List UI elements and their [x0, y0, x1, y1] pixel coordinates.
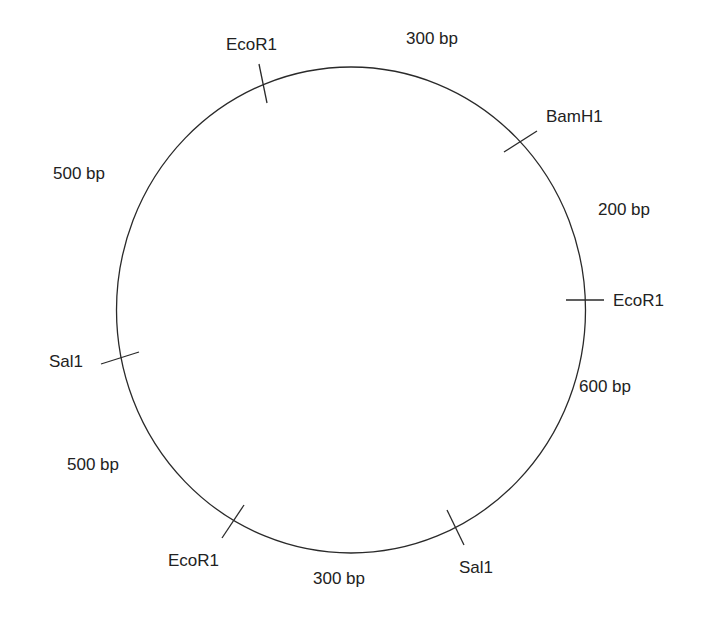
fragment-label-bottom: 300 bp — [313, 570, 365, 587]
tick-bamh1 — [504, 131, 537, 152]
site-label-ecor1-top: EcoR1 — [226, 36, 277, 53]
plasmid-map — [0, 0, 715, 619]
site-label-bamh1: BamH1 — [546, 108, 603, 125]
tick-sal1-bottom — [447, 510, 464, 545]
fragment-label-upper-left: 500 bp — [53, 165, 105, 182]
site-label-sal1-bottom: Sal1 — [459, 559, 493, 576]
fragment-label-lower-left: 500 bp — [67, 456, 119, 473]
fragment-label-top: 300 bp — [406, 30, 458, 47]
fragment-label-lower-right: 600 bp — [579, 378, 631, 395]
fragment-label-upper-right: 200 bp — [598, 201, 650, 218]
site-label-ecor1-right: EcoR1 — [613, 292, 664, 309]
site-label-ecor1-bottom: EcoR1 — [168, 552, 219, 569]
tick-ecor1-bottom — [222, 505, 244, 538]
site-label-sal1-left: Sal1 — [49, 353, 83, 370]
plasmid-ring — [117, 67, 586, 553]
